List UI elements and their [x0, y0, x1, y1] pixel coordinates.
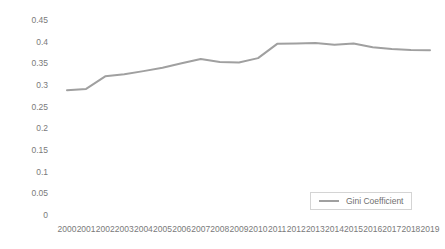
chart-legend: Gini Coefficient — [310, 192, 412, 210]
series-gini-coefficient — [0, 0, 445, 215]
legend-item-label: Gini Coefficient — [346, 196, 403, 206]
plot-area — [0, 0, 445, 215]
line-swatch-icon — [319, 200, 339, 202]
line-chart: 00.050.10.150.20.250.30.350.40.45 200020… — [0, 0, 445, 249]
series-line-gini-coefficient — [67, 43, 430, 90]
x-axis: 2000200120022003200420052006200720082009… — [0, 224, 445, 242]
x-axis-tick-label: 2019 — [415, 224, 445, 235]
